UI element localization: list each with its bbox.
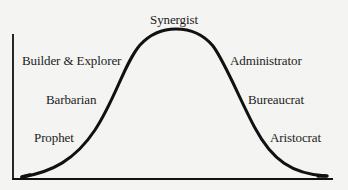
bell-curve-diagram: Synergist Builder & Explorer Administrat… [0, 0, 348, 190]
curve-start-mark [22, 175, 30, 177]
label-prophet: Prophet [34, 131, 74, 145]
label-bureaucrat: Bureaucrat [248, 93, 304, 107]
label-aristocrat: Aristocrat [270, 131, 321, 145]
label-barbarian: Barbarian [46, 93, 96, 107]
label-builder-explorer: Builder & Explorer [22, 54, 121, 68]
label-synergist: Synergist [150, 13, 198, 27]
label-administrator: Administrator [230, 54, 302, 68]
